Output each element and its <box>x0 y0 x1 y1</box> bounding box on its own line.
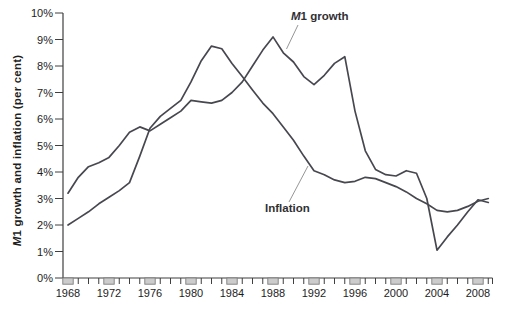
x-axis-year-box <box>104 278 114 284</box>
y-axis-title-text: 1 growth and inflation (per cent) <box>11 55 23 237</box>
y-tick-label: 2% <box>37 219 53 231</box>
y-tick-label: 10% <box>31 7 53 19</box>
y-tick-label: 0% <box>37 272 53 284</box>
chart-figure: 0%1%2%3%4%5%6%7%8%9%10%19681972197619801… <box>0 0 511 316</box>
x-axis-year-box <box>391 278 401 284</box>
x-tick-label: 1996 <box>343 287 367 299</box>
y-tick-label: 7% <box>37 87 53 99</box>
x-tick-label: 2004 <box>425 287 449 299</box>
x-axis-year-box <box>227 278 237 284</box>
x-axis-year-box <box>145 278 155 284</box>
x-axis-year-box <box>473 278 483 284</box>
x-axis-year-box <box>309 278 319 284</box>
y-tick-label: 4% <box>37 166 53 178</box>
x-axis-year-box <box>268 278 278 284</box>
x-tick-label: 1992 <box>302 287 326 299</box>
y-axis-title: M1 growth and inflation (per cent) <box>11 11 26 291</box>
x-axis-year-box <box>63 278 73 284</box>
x-tick-label: 1976 <box>138 287 162 299</box>
x-tick-label: 1980 <box>179 287 203 299</box>
y-tick-label: 1% <box>37 246 53 258</box>
m1-label-text: 1 growth <box>301 10 349 22</box>
y-tick-label: 9% <box>37 34 53 46</box>
x-tick-label: 2008 <box>466 287 490 299</box>
m1-growth-line <box>68 37 488 250</box>
inflation-line <box>68 46 488 225</box>
x-tick-label: 2000 <box>384 287 408 299</box>
y-tick-label: 3% <box>37 193 53 205</box>
x-tick-label: 1984 <box>220 287 244 299</box>
x-tick-label: 1968 <box>56 287 80 299</box>
x-axis-year-box <box>186 278 196 284</box>
x-tick-label: 1988 <box>261 287 285 299</box>
line-chart-canvas: 0%1%2%3%4%5%6%7%8%9%10%19681972197619801… <box>0 0 511 316</box>
x-axis-year-box <box>432 278 442 284</box>
y-tick-label: 5% <box>37 140 53 152</box>
m1-label-italic-m: M <box>291 10 301 22</box>
inflation-series-label: Inflation <box>265 202 310 214</box>
m1-growth-series-label: M1 growth <box>291 10 349 22</box>
inflation-leader-line <box>289 166 308 202</box>
y-tick-label: 8% <box>37 60 53 72</box>
y-axis-title-italic-m: M <box>11 236 23 246</box>
x-axis-year-box <box>350 278 360 284</box>
y-tick-label: 6% <box>37 113 53 125</box>
x-tick-label: 1972 <box>97 287 121 299</box>
m1-growth-leader-line <box>287 25 299 49</box>
